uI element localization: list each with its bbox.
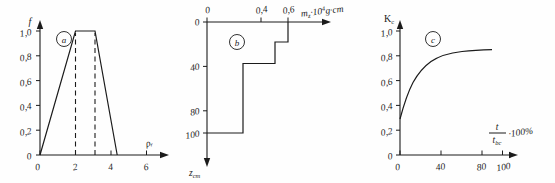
- panel-c-xtick-40: 40: [435, 161, 446, 173]
- panel-c-tag-label: c: [431, 35, 435, 45]
- panel-b-x-axis: [207, 19, 331, 25]
- panel-a-curve: [40, 31, 117, 155]
- panel-c-ytick-0: 0: [387, 151, 394, 162]
- panel-c-xlabel-denominator-sub: bc: [495, 139, 501, 146]
- panel-b-tag: b: [230, 35, 245, 50]
- panel-a-ytick-08: 0,8: [19, 52, 33, 64]
- panel-b-xtick-04: 0,4: [255, 4, 269, 16]
- panel-a-tag-label: a: [62, 35, 67, 45]
- panel-a-y-ticks: [36, 31, 40, 155]
- panel-b-xtick-0: 0: [204, 5, 211, 16]
- panel-b-ytick-80: 80: [189, 106, 200, 118]
- chart-panel-c: 0 0,2 0,4 0,6 0,8 1,0 0 40 80 100 Kc t: [370, 0, 555, 183]
- panel-a-xtick-2: 2: [72, 162, 79, 173]
- panel-b-x-ticks: [207, 18, 288, 23]
- panel-a-xtick-4: 4: [107, 162, 114, 173]
- panel-c-curve: [400, 50, 492, 119]
- panel-a-x-axis: [40, 152, 169, 158]
- panel-b-ylabel-sub: cm: [193, 172, 201, 179]
- panel-b-y-axis-label: zcm: [188, 168, 201, 179]
- svg-text:tbc: tbc: [493, 135, 502, 146]
- panel-c-xlabel-numerator: t: [496, 122, 499, 132]
- panel-b-ytick-100: 100: [185, 129, 201, 141]
- panel-c-ylabel-sub: c: [391, 18, 394, 25]
- panel-c-ytick-04: 0,4: [380, 101, 394, 113]
- svg-text:zcm: zcm: [188, 168, 201, 179]
- panel-a-x-axis-label: ρᵣ: [144, 137, 154, 148]
- panel-a-ytick-10: 1,0: [19, 27, 33, 39]
- panel-a-xtick-0: 0: [34, 162, 41, 173]
- panel-a-xtick-6: 6: [143, 162, 150, 173]
- panel-b-xlabel-tail: g·cm: [325, 4, 344, 16]
- panel-c-xlabel-tail: ·100%: [508, 126, 534, 139]
- panel-a-y-axis-label: f: [29, 16, 33, 27]
- panel-c-xtick-0: 0: [394, 162, 401, 173]
- panel-b-tag-label: b: [235, 38, 240, 48]
- svg-text:mz·104g·cm: mz·104g·cm: [300, 2, 344, 19]
- panel-b-y-axis: [204, 22, 210, 167]
- panel-a-tag: a: [57, 32, 72, 47]
- panel-a-y-axis: [37, 20, 43, 155]
- figure-root: 0 0,2 0,4 0,6 0,8 1,0 0 2 4 6 f ρᵣ a: [0, 0, 555, 183]
- panel-c-tag: c: [426, 32, 441, 47]
- panel-c-ytick-02: 0,2: [380, 126, 394, 138]
- panel-c-y-ticks: [396, 31, 400, 155]
- panel-c-xtick-100: 100: [496, 161, 512, 173]
- panel-b-y-ticks: [203, 22, 207, 133]
- panel-c-ytick-10: 1,0: [380, 27, 394, 39]
- panel-a-ytick-0: 0: [26, 151, 33, 162]
- panel-c-ytick-06: 0,6: [380, 77, 394, 89]
- panel-c-x-axis: [400, 152, 518, 158]
- panel-b-x-axis-label: mz·104g·cm: [300, 2, 344, 19]
- panel-b-step-curve: [207, 22, 288, 133]
- panel-c-x-ticks: [400, 151, 503, 156]
- panel-a-ytick-06: 0,6: [19, 77, 33, 89]
- panel-c-x-axis-label: t tbc ·100%: [489, 122, 534, 146]
- panel-a-ytick-02: 0,2: [19, 126, 33, 138]
- panel-a-x-ticks: [40, 151, 147, 156]
- panel-c-y-axis-label: Kc: [384, 13, 394, 25]
- panel-c-ytick-08: 0,8: [380, 52, 394, 64]
- panel-c-xtick-80: 80: [476, 161, 487, 173]
- panel-b-ytick-0: 0: [194, 17, 201, 28]
- chart-panel-b: 0 40 80 100 0 0,4 0,6 mz·104g·cm zcm: [185, 0, 375, 183]
- chart-panel-a: 0 0,2 0,4 0,6 0,8 1,0 0 2 4 6 f ρᵣ a: [0, 0, 185, 183]
- panel-c-y-axis: [397, 20, 403, 155]
- svg-text:Kc: Kc: [384, 13, 394, 25]
- panel-b-ytick-40: 40: [189, 62, 200, 74]
- panel-b-xtick-06: 0,6: [282, 4, 296, 16]
- panel-a-ytick-04: 0,4: [19, 101, 33, 113]
